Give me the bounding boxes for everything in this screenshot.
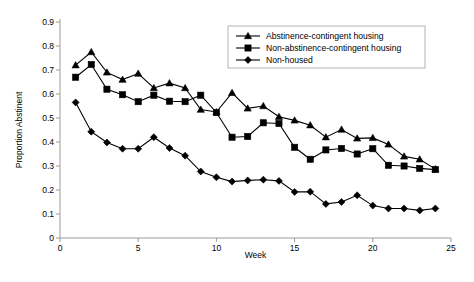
data-point bbox=[119, 145, 126, 152]
data-point bbox=[401, 205, 408, 212]
data-point bbox=[88, 128, 95, 135]
data-point bbox=[229, 178, 236, 185]
legend-label-1: Non-abstinence-contingent housing bbox=[266, 43, 401, 53]
x-tick-label: 20 bbox=[368, 243, 378, 253]
data-point bbox=[323, 147, 329, 153]
legend-marker-1 bbox=[245, 45, 251, 51]
data-point bbox=[213, 109, 219, 115]
data-point bbox=[401, 163, 407, 169]
data-point bbox=[260, 176, 267, 183]
data-point bbox=[276, 120, 282, 126]
data-point bbox=[135, 99, 141, 105]
data-point bbox=[291, 188, 298, 195]
series-line-0 bbox=[76, 52, 436, 169]
x-tick-label: 25 bbox=[446, 243, 456, 253]
data-point bbox=[385, 205, 392, 212]
data-point bbox=[245, 133, 251, 139]
y-tick-label: 0.8 bbox=[42, 41, 54, 51]
data-point bbox=[322, 134, 329, 140]
y-tick-label: 0.1 bbox=[42, 209, 54, 219]
data-point bbox=[260, 102, 267, 108]
data-point bbox=[73, 74, 79, 80]
data-point bbox=[244, 177, 251, 184]
y-axis-title: Proportion Abstinent bbox=[14, 91, 24, 168]
data-point bbox=[166, 80, 173, 86]
data-point bbox=[338, 126, 345, 132]
data-point bbox=[369, 202, 376, 209]
data-point bbox=[260, 120, 266, 126]
data-point bbox=[198, 92, 204, 98]
y-tick-label: 0.4 bbox=[42, 137, 54, 147]
chart-container: 00.10.20.30.40.50.60.70.80.90510152025We… bbox=[0, 0, 474, 282]
data-point bbox=[104, 86, 110, 92]
data-point bbox=[416, 207, 423, 214]
series-line-1 bbox=[76, 64, 436, 169]
data-point bbox=[88, 61, 94, 67]
data-point bbox=[72, 99, 79, 106]
data-point bbox=[151, 92, 157, 98]
y-tick-label: 0.6 bbox=[42, 89, 54, 99]
data-point bbox=[275, 113, 282, 119]
data-point bbox=[354, 192, 361, 199]
data-point bbox=[228, 89, 235, 95]
data-point bbox=[119, 92, 125, 98]
legend-label-2: Non-housed bbox=[266, 55, 313, 65]
series-line-2 bbox=[76, 102, 436, 210]
y-tick-label: 0.7 bbox=[42, 65, 54, 75]
data-point bbox=[135, 70, 142, 76]
data-point bbox=[103, 139, 110, 146]
y-tick-label: 0.9 bbox=[42, 17, 54, 27]
data-point bbox=[166, 145, 173, 152]
y-tick-label: 0 bbox=[49, 233, 54, 243]
data-point bbox=[307, 156, 313, 162]
data-point bbox=[385, 162, 391, 168]
y-tick-label: 0.2 bbox=[42, 185, 54, 195]
data-point bbox=[213, 174, 220, 181]
line-chart: 00.10.20.30.40.50.60.70.80.90510152025We… bbox=[0, 0, 474, 282]
data-point bbox=[166, 98, 172, 104]
data-point bbox=[275, 177, 282, 184]
data-point bbox=[182, 99, 188, 105]
data-point bbox=[432, 167, 438, 173]
data-point bbox=[354, 151, 360, 157]
data-point bbox=[338, 145, 344, 151]
y-tick-label: 0.3 bbox=[42, 161, 54, 171]
y-tick-label: 0.5 bbox=[42, 113, 54, 123]
x-tick-label: 10 bbox=[212, 243, 222, 253]
legend-label-0: Abstinence-contingent housing bbox=[266, 31, 384, 41]
x-axis-title: Week bbox=[245, 250, 267, 260]
data-point bbox=[400, 153, 407, 159]
data-point bbox=[229, 134, 235, 140]
data-point bbox=[338, 199, 345, 206]
data-point bbox=[370, 146, 376, 152]
x-tick-label: 15 bbox=[290, 243, 300, 253]
data-point bbox=[292, 144, 298, 150]
data-point bbox=[432, 205, 439, 212]
x-tick-label: 0 bbox=[58, 243, 63, 253]
x-tick-label: 5 bbox=[136, 243, 141, 253]
data-point bbox=[417, 165, 423, 171]
data-point bbox=[88, 48, 95, 54]
